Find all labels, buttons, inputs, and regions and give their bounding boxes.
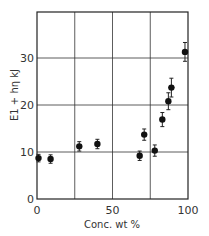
marker-dot xyxy=(136,153,142,159)
x-axis-label: Conc. wt % xyxy=(84,219,140,230)
y-tick-label: 30 xyxy=(20,52,34,65)
x-tick-label: 0 xyxy=(34,204,41,217)
grid-lines xyxy=(37,12,188,199)
data-point xyxy=(152,145,158,156)
marker-dot xyxy=(152,147,158,153)
data-point xyxy=(182,42,188,61)
data-point xyxy=(141,129,147,140)
data-point xyxy=(168,78,174,97)
marker-dot xyxy=(182,49,188,55)
data-point xyxy=(35,154,41,162)
data-point xyxy=(136,151,142,160)
tick-labels: 0102030050100 xyxy=(20,52,199,217)
marker-dot xyxy=(35,155,41,161)
y-tick-label: 10 xyxy=(20,146,34,159)
data-points xyxy=(35,42,188,163)
scatter-chart: 0102030050100 Conc. wt % E1 + hη kJ xyxy=(0,0,209,236)
marker-dot xyxy=(47,156,53,162)
marker-dot xyxy=(76,143,82,149)
marker-dot xyxy=(168,84,174,90)
data-point xyxy=(76,142,82,151)
marker-dot xyxy=(94,141,100,147)
marker-dot xyxy=(159,116,165,122)
y-axis-label: E1 + hη kJ xyxy=(9,69,20,121)
data-point xyxy=(159,113,165,127)
y-tick-label: 20 xyxy=(20,99,34,112)
data-point xyxy=(165,93,171,110)
x-tick-label: 50 xyxy=(106,204,120,217)
marker-dot xyxy=(141,131,147,137)
marker-dot xyxy=(165,98,171,104)
x-tick-label: 100 xyxy=(178,204,199,217)
data-point xyxy=(94,139,100,148)
data-point xyxy=(47,155,53,163)
